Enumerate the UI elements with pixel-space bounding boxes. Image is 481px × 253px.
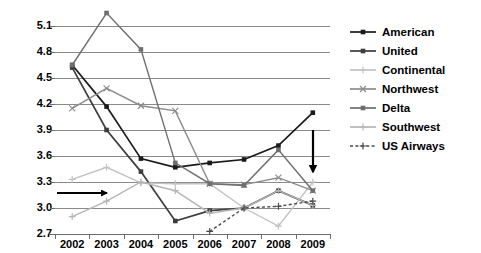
- series-american: [70, 63, 315, 170]
- series-northwest: [69, 85, 316, 193]
- legend-swatch-icon: [350, 139, 376, 153]
- legend-item-northwest[interactable]: Northwest: [350, 79, 480, 98]
- y-axis-tick: [50, 156, 55, 157]
- y-axis-tick: [50, 78, 55, 79]
- legend-swatch-icon: [350, 63, 376, 77]
- legend-item-label: Continental: [382, 64, 445, 76]
- y-axis-tick: [50, 26, 55, 27]
- x-axis-tick: [296, 234, 297, 239]
- legend: AmericanUnitedContinentalNorthwestDeltaS…: [350, 22, 480, 155]
- legend-swatch-icon: [350, 44, 376, 58]
- legend-swatch-icon: [350, 120, 376, 134]
- x-axis-tick: [227, 234, 228, 239]
- y-axis-tick: [50, 52, 55, 53]
- legend-item-delta[interactable]: Delta: [350, 98, 480, 117]
- legend-swatch-icon: [350, 25, 376, 39]
- series-us-airways: [206, 198, 316, 235]
- legend-item-label: Northwest: [382, 83, 438, 95]
- y-axis-tick: [50, 208, 55, 209]
- legend-item-label: Southwest: [382, 121, 440, 133]
- x-axis-tick: [124, 234, 125, 239]
- legend-item-southwest[interactable]: Southwest: [350, 117, 480, 136]
- legend-item-label: American: [382, 26, 434, 38]
- legend-item-label: Delta: [382, 102, 410, 114]
- legend-swatch-icon: [350, 82, 376, 96]
- legend-item-continental[interactable]: Continental: [350, 60, 480, 79]
- x-axis-tick: [330, 234, 331, 239]
- legend-item-label: United: [382, 45, 418, 57]
- y-axis-tick: [50, 104, 55, 105]
- x-axis-tick: [193, 234, 194, 239]
- x-axis-tick: [158, 234, 159, 239]
- legend-swatch-icon: [350, 101, 376, 115]
- y-axis-tick: [50, 130, 55, 131]
- x-axis-tick: [261, 234, 262, 239]
- y-axis-tick: [50, 182, 55, 183]
- legend-item-label: US Airways: [382, 140, 445, 152]
- legend-item-united[interactable]: United: [350, 41, 480, 60]
- legend-item-us-airways[interactable]: US Airways: [350, 136, 480, 155]
- x-axis-tick: [89, 234, 90, 239]
- chart-figure: 2.73.03.33.63.94.24.54.85.1 200220032004…: [0, 0, 481, 253]
- legend-item-american[interactable]: American: [350, 22, 480, 41]
- series-southwest: [69, 179, 316, 220]
- x-axis-tick: [55, 234, 56, 239]
